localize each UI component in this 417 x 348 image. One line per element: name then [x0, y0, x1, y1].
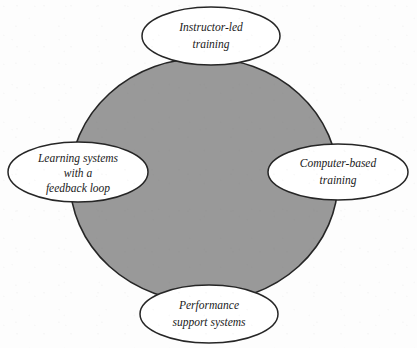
node-label-right-line1: Computer-based	[300, 157, 377, 170]
diagram-canvas: Instructor-led training Computer-based t…	[0, 0, 417, 348]
diagram-svg: Instructor-led training Computer-based t…	[0, 0, 417, 348]
node-label-left-line3: feedback loop	[46, 182, 110, 195]
node-label-top-line2: training	[192, 38, 229, 51]
node-label-bottom-line2: support systems	[172, 316, 246, 329]
node-label-bottom-line1: Performance	[178, 299, 239, 312]
node-performance-support-systems[interactable]: Performance support systems	[140, 285, 278, 343]
node-ellipse-right[interactable]	[268, 144, 408, 200]
node-label-top-line1: Instructor-led	[178, 21, 243, 33]
node-learning-systems-with-a-feedback-loop[interactable]: Learning systems with a feedback loop	[8, 142, 148, 202]
node-ellipse-bottom[interactable]	[140, 285, 278, 343]
node-computer-based-training[interactable]: Computer-based training	[268, 144, 408, 200]
node-label-left-line2: with a	[64, 167, 93, 179]
node-instructor-led-training[interactable]: Instructor-led training	[142, 7, 280, 65]
node-label-right-line2: training	[319, 174, 356, 187]
node-ellipse-top[interactable]	[142, 7, 280, 65]
node-label-left-line1: Learning systems	[37, 152, 119, 165]
